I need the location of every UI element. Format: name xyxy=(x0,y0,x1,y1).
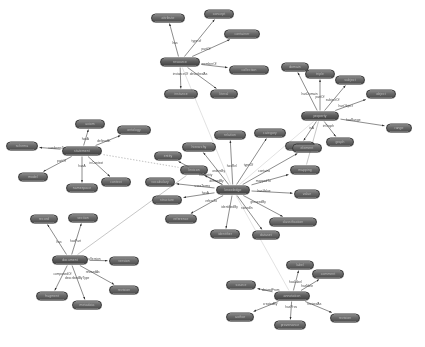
graph-edge xyxy=(226,196,232,229)
node-label: author xyxy=(235,315,245,319)
graph-node[interactable]: hierarchy xyxy=(182,143,216,152)
graph-edge xyxy=(254,302,279,312)
node-label: concept xyxy=(213,12,226,16)
node-label: record xyxy=(39,217,49,221)
graph-node[interactable]: lexicon xyxy=(180,166,208,175)
graph-node[interactable]: dataset xyxy=(252,231,280,240)
graph-edge xyxy=(230,141,232,185)
graph-node[interactable]: entity xyxy=(154,152,182,161)
graph-edge xyxy=(301,280,319,291)
graph-node[interactable]: graph xyxy=(326,138,354,147)
node-label: element xyxy=(301,146,314,150)
graph-node[interactable]: record xyxy=(30,215,58,224)
node-label: literal xyxy=(220,92,229,96)
graph-node[interactable]: fragment xyxy=(36,292,68,301)
graph-node[interactable]: identifier xyxy=(210,230,240,239)
graph-node[interactable]: label xyxy=(286,261,314,270)
graph-edge xyxy=(205,176,223,185)
graph-node[interactable]: literal xyxy=(210,90,238,99)
node-label: container xyxy=(235,32,250,36)
graph-node[interactable]: concept xyxy=(204,10,234,19)
node-label: annotation xyxy=(284,294,301,298)
graph-node[interactable]: triple xyxy=(305,70,335,79)
node-label: instance xyxy=(174,92,187,96)
graph-hub-node[interactable]: knowledge xyxy=(216,186,250,195)
graph-node[interactable]: container xyxy=(224,30,260,39)
graph-node[interactable]: comment xyxy=(312,270,344,279)
node-label: reference xyxy=(173,217,188,221)
graph-node[interactable]: schema xyxy=(6,142,38,151)
graph-node[interactable]: author xyxy=(226,313,254,322)
graph-node[interactable]: context xyxy=(101,178,131,187)
graph-hub-node[interactable]: property xyxy=(301,112,339,121)
node-label: schema xyxy=(16,144,28,148)
graph-node[interactable]: reference xyxy=(165,215,197,224)
graph-edge xyxy=(96,136,121,146)
graph-node[interactable]: instance xyxy=(164,90,198,99)
node-label: classification xyxy=(283,220,304,224)
graph-node[interactable]: version xyxy=(109,257,139,266)
node-label: dataset xyxy=(260,233,272,237)
graph-edge xyxy=(170,24,179,57)
graph-node[interactable]: model xyxy=(18,173,48,182)
graph-edge xyxy=(202,64,228,67)
graph-node[interactable]: subject xyxy=(335,76,365,85)
graph-hub-node[interactable]: statement xyxy=(62,147,102,156)
graph-edge xyxy=(184,20,214,57)
graph-edge xyxy=(184,193,215,198)
node-label: relation xyxy=(224,133,236,137)
node-label: vocabulary xyxy=(151,180,168,184)
graph-edge xyxy=(180,68,181,89)
graph-node[interactable]: ontology xyxy=(117,126,151,135)
graph-node[interactable]: revision xyxy=(330,314,360,323)
graph-node[interactable]: namespace xyxy=(66,184,98,193)
graph-node[interactable]: domain xyxy=(281,63,309,72)
graph-node[interactable]: vocabulary xyxy=(145,178,175,187)
graph-hub-node[interactable]: annotation xyxy=(274,292,310,301)
graph-edge xyxy=(293,271,298,291)
node-label: revision xyxy=(339,316,351,320)
graph-node[interactable]: provenance xyxy=(274,321,306,330)
graph-node[interactable]: axiom xyxy=(75,120,105,129)
node-label: document xyxy=(62,258,78,262)
graph-node[interactable]: range xyxy=(386,124,412,133)
node-label: ontology xyxy=(127,128,141,132)
node-label: label xyxy=(296,263,304,267)
graph-node[interactable]: source xyxy=(226,281,256,290)
node-label: knowledge xyxy=(224,188,241,192)
node-label: context xyxy=(110,180,122,184)
node-label: collection xyxy=(241,68,256,72)
graph-node[interactable]: object xyxy=(366,90,396,99)
graph-hub-node[interactable]: resource xyxy=(160,58,200,67)
graph-node[interactable]: mapping xyxy=(290,166,320,175)
node-label: source xyxy=(236,283,247,287)
graph-edge xyxy=(237,196,262,230)
node-label: version xyxy=(118,259,130,263)
graph-node[interactable]: classification xyxy=(269,218,317,227)
graph-edge xyxy=(236,196,289,291)
graph-edge xyxy=(341,119,385,126)
graph-node[interactable]: collection xyxy=(229,66,269,75)
node-label: entity xyxy=(164,154,173,158)
graph-edge xyxy=(290,302,291,320)
node-label: hierarchy xyxy=(192,145,207,149)
graph-hub-node[interactable]: document xyxy=(52,256,88,265)
graph-node[interactable]: value xyxy=(294,190,320,199)
graph-node[interactable]: relation xyxy=(214,131,246,140)
graph-node[interactable]: section xyxy=(68,214,98,223)
node-label: range xyxy=(394,126,403,130)
graph-node[interactable]: revision xyxy=(109,286,139,295)
graph-node[interactable]: element xyxy=(292,144,322,153)
graph-node[interactable]: metadata xyxy=(72,301,102,310)
node-label: attribute xyxy=(161,16,174,20)
graph-edge xyxy=(55,266,68,291)
graph-edge xyxy=(324,122,336,137)
node-label: mapping xyxy=(298,168,312,172)
graph-node[interactable]: structure xyxy=(152,196,182,205)
graph-node[interactable]: category xyxy=(254,129,286,138)
node-label: resource xyxy=(173,60,187,64)
node-label: domain xyxy=(289,65,301,69)
node-label: axiom xyxy=(85,122,95,126)
graph-node[interactable]: attribute xyxy=(151,14,185,23)
node-label: category xyxy=(263,131,277,135)
